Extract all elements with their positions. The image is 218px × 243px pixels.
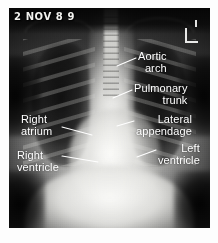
annotation-right-atrium[interactable]: Right atrium: [21, 114, 52, 137]
annotation-right-ventricle[interactable]: Right ventricle: [17, 150, 59, 173]
annotation-pulmonary-trunk-line1: Pulmonary: [134, 83, 187, 95]
annotation-right-atrium-line2: atrium: [21, 126, 52, 138]
laterality-corner-icon: [185, 28, 198, 43]
page-root: 2 NOV 8 9 Aortic arch Pulmonary trunk La…: [0, 0, 218, 243]
annotation-pulmonary-trunk-line2: trunk: [134, 95, 187, 107]
annotation-left-ventricle-line2: ventricle: [158, 155, 200, 167]
annotation-right-atrium-line1: Right: [21, 114, 52, 126]
annotation-aortic-arch-line2: arch: [138, 63, 167, 75]
annotation-aortic-arch[interactable]: Aortic arch: [138, 51, 167, 74]
annotation-aortic-arch-line1: Aortic: [138, 51, 167, 63]
laterality-tick-icon: [195, 20, 197, 27]
date-stamp: 2 NOV 8 9: [14, 12, 75, 22]
annotation-lateral-appendage-line1: Lateral: [136, 114, 192, 126]
annotation-left-ventricle-line1: Left: [158, 143, 200, 155]
flank-shadow-left: [9, 171, 45, 228]
annotation-right-ventricle-line1: Right: [17, 150, 59, 162]
annotation-lateral-appendage[interactable]: Lateral appendage: [136, 114, 192, 137]
annotation-left-ventricle[interactable]: Left ventricle: [158, 143, 200, 166]
annotation-right-ventricle-line2: ventricle: [17, 162, 59, 174]
annotation-lateral-appendage-line2: appendage: [136, 126, 192, 138]
annotation-pulmonary-trunk[interactable]: Pulmonary trunk: [134, 83, 187, 106]
flank-shadow-right: [174, 171, 210, 228]
